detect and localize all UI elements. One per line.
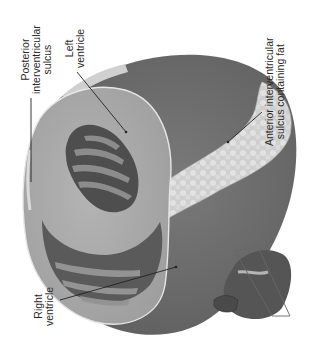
inset-vessel	[214, 296, 238, 313]
label-left-ventricle: Left ventricle	[64, 29, 86, 68]
label-line: sulcus containing fat	[275, 37, 286, 146]
inset-fat	[238, 272, 268, 274]
label-line: ventricle	[44, 287, 55, 326]
label-posterior-interventricular-sulcus: Posterior interventricular sulcus	[20, 25, 53, 94]
label-right-ventricle: Right ventricle	[33, 287, 55, 326]
label-anterior-interventricular-sulcus: Anterior interventricular sulcus contain…	[264, 37, 286, 146]
label-line: ventricle	[75, 29, 86, 68]
label-line: sulcus	[42, 25, 53, 94]
